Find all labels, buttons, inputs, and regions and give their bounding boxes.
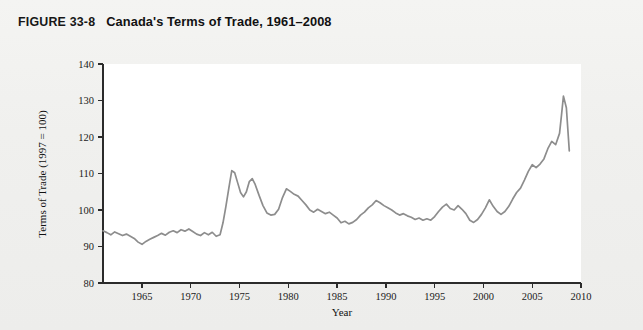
chart-plot-area: 8090100110120130140 19651970197519801985… xyxy=(0,0,643,330)
y-axis-ticks: 8090100110120130140 xyxy=(78,59,103,289)
y-axis-tick-label: 120 xyxy=(78,132,94,143)
y-axis-tick-label: 80 xyxy=(84,278,95,289)
x-axis-tick-label: 1980 xyxy=(278,291,299,302)
x-axis-title: Year xyxy=(332,306,353,318)
x-axis-tick-label: 1965 xyxy=(132,291,153,302)
line-chart-svg: 8090100110120130140 19651970197519801985… xyxy=(0,0,643,330)
x-axis-tick-label: 2000 xyxy=(473,291,494,302)
x-axis-tick-label: 1970 xyxy=(180,291,201,302)
y-axis-tick-label: 140 xyxy=(78,59,94,70)
x-axis-tick-label: 1990 xyxy=(375,291,396,302)
x-axis-tick-label: 2005 xyxy=(522,291,543,302)
y-axis-tick-label: 100 xyxy=(78,205,94,216)
y-axis-title: Terms of Trade (1997 = 100) xyxy=(36,110,49,238)
x-axis-tick-label: 1975 xyxy=(229,291,250,302)
x-axis-tick-label: 1985 xyxy=(327,291,348,302)
y-axis-tick-label: 130 xyxy=(78,95,94,106)
x-axis-ticks: 1965197019751980198519901995200020052010 xyxy=(132,283,592,302)
y-axis-tick-label: 110 xyxy=(79,168,94,179)
x-axis-tick-label: 2010 xyxy=(571,291,592,302)
y-axis-tick-label: 90 xyxy=(84,241,95,252)
figure-container: FIGURE 33-8 Canada's Terms of Trade, 196… xyxy=(0,0,643,330)
x-axis-tick-label: 1995 xyxy=(424,291,445,302)
plot-background xyxy=(103,64,581,283)
